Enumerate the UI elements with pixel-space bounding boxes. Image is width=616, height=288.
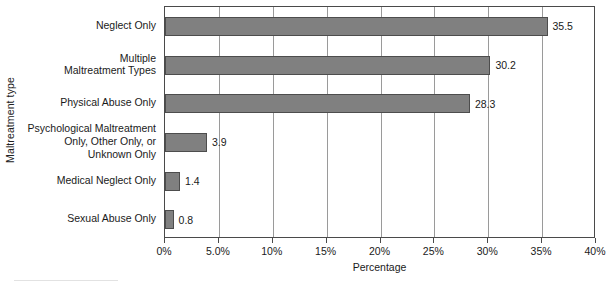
bar-value-label: 3.9	[212, 137, 227, 148]
category-label: Psychological Maltreatment Only, Other O…	[14, 122, 156, 160]
bar	[165, 17, 548, 36]
gridline	[434, 7, 435, 237]
gridline	[381, 7, 382, 237]
bar-value-label: 30.2	[495, 60, 515, 71]
plot-area: 35.530.228.33.91.40.8	[164, 6, 595, 238]
x-axis-tick-label: 35%	[531, 245, 552, 257]
gridline	[327, 7, 328, 237]
x-axis-tick-label: 40%	[584, 245, 605, 257]
x-axis-tickmark	[272, 238, 273, 243]
x-axis-tickmark	[326, 238, 327, 243]
x-axis-tickmark	[433, 238, 434, 243]
x-axis-title: Percentage	[164, 261, 595, 273]
x-axis-tickmark	[487, 238, 488, 243]
x-axis-tick-label: 10%	[261, 245, 282, 257]
y-axis-title: Maltreatment type	[0, 0, 20, 240]
category-label: Multiple Maltreatment Types	[14, 52, 156, 77]
bar	[165, 210, 174, 229]
x-axis-tickmarks	[164, 238, 595, 244]
gridline	[219, 7, 220, 237]
footer-divider	[14, 280, 118, 281]
bar-value-label: 1.4	[185, 176, 200, 187]
bar-value-label: 35.5	[553, 21, 573, 32]
category-label: Neglect Only	[14, 19, 156, 32]
bar-value-label: 0.8	[179, 215, 194, 226]
x-axis-tick-labels: 0%5.0%10%15%20%25%30%35%40%	[164, 245, 595, 259]
x-axis-tick-label: 20%	[369, 245, 390, 257]
x-axis-tick-label: 25%	[423, 245, 444, 257]
category-label: Sexual Abuse Only	[14, 212, 156, 225]
bar	[165, 133, 207, 152]
bar-chart: Maltreatment type Neglect OnlyMultiple M…	[0, 0, 616, 288]
category-label: Physical Abuse Only	[14, 96, 156, 109]
x-axis-tickmark	[541, 238, 542, 243]
gridline	[488, 7, 489, 237]
bar-value-label: 28.3	[475, 99, 495, 110]
x-axis-tickmark	[380, 238, 381, 243]
bar	[165, 94, 470, 113]
gridline	[273, 7, 274, 237]
bar	[165, 56, 490, 75]
x-axis-tick-label: 5.0%	[206, 245, 230, 257]
gridline	[542, 7, 543, 237]
bar	[165, 172, 180, 191]
category-label-list: Neglect OnlyMultiple Maltreatment TypesP…	[18, 6, 160, 238]
x-axis-tickmark	[218, 238, 219, 243]
x-axis-tick-label: 15%	[315, 245, 336, 257]
x-axis-tickmark	[595, 238, 596, 243]
x-axis-tickmark	[164, 238, 165, 243]
x-axis-tick-label: 0%	[156, 245, 171, 257]
category-label: Medical Neglect Only	[14, 174, 156, 187]
x-axis-tick-label: 30%	[477, 245, 498, 257]
